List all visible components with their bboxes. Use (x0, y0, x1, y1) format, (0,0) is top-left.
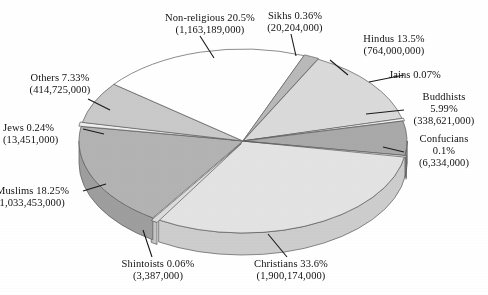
label-others-line1: Others 7.33% (8, 72, 112, 84)
label-christians-line2: (1,900,174,000) (226, 270, 356, 282)
label-muslims: Muslims 18.25% (1,033,453,000) (0, 185, 104, 209)
label-others: Others 7.33% (414,725,000) (8, 72, 112, 96)
label-muslims-line1: Muslims 18.25% (0, 185, 104, 197)
label-confucians-line1: Confucians (400, 133, 488, 145)
label-shintoists: Shintoists 0.06% (3,387,000) (96, 258, 220, 282)
label-muslims-line2: (1,033,453,000) (0, 197, 104, 209)
pie-chart-figure: Non-religious 20.5% (1,163,189,000) Sikh… (0, 0, 488, 295)
label-confucians: Confucians 0.1% (6,334,000) (400, 133, 488, 170)
label-confucians-line3: (6,334,000) (400, 157, 488, 169)
label-jains: Jains 0.07% (389, 69, 488, 81)
label-hindus-line2: (764,000,000) (341, 45, 447, 57)
label-buddhists-line2: 5.99% (400, 103, 488, 115)
label-buddhists-line3: (338,621,000) (400, 115, 488, 127)
pie-top-slices (79, 49, 407, 233)
label-shintoists-line2: (3,387,000) (96, 270, 220, 282)
label-sikhs: Sikhs 0.36% (20,204,000) (248, 10, 342, 34)
label-others-line2: (414,725,000) (8, 84, 112, 96)
label-sikhs-line2: (20,204,000) (248, 22, 342, 34)
label-buddhists: Buddhists 5.99% (338,621,000) (400, 91, 488, 128)
label-hindus-line1: Hindus 13.5% (341, 33, 447, 45)
label-christians-line1: Christians 33.6% (226, 258, 356, 270)
label-christians: Christians 33.6% (1,900,174,000) (226, 258, 356, 282)
label-jains-line1: Jains 0.07% (389, 69, 488, 81)
label-confucians-line2: 0.1% (400, 145, 488, 157)
label-shintoists-line1: Shintoists 0.06% (96, 258, 220, 270)
label-jews-line1: Jews 0.24% (3, 122, 103, 134)
label-sikhs-line1: Sikhs 0.36% (248, 10, 342, 22)
label-jews: Jews 0.24% (13,451,000) (3, 122, 103, 146)
label-buddhists-line1: Buddhists (400, 91, 488, 103)
label-hindus: Hindus 13.5% (764,000,000) (341, 33, 447, 57)
leader-line-sikhs (291, 34, 296, 56)
label-jews-line2: (13,451,000) (3, 134, 103, 146)
